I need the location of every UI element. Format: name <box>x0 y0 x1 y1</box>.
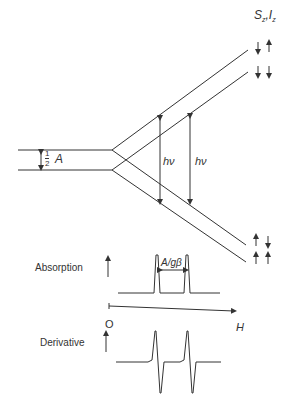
fraction-denominator: 2 <box>45 159 49 168</box>
splitting-label: A/gβ <box>161 257 182 268</box>
iz-subscript: z <box>272 16 276 23</box>
sz-label: S <box>254 8 262 22</box>
hv-label-right: hν <box>195 155 207 167</box>
esr-hyperfine-diagram: Sz,Iz 1 2 A hν hν Absorption A/gβ O H De… <box>0 0 286 405</box>
hyperfine-constant-label: A <box>55 152 63 166</box>
field-axis-label: H <box>236 321 244 333</box>
half-fraction: 1 2 <box>45 149 49 168</box>
origin-label: O <box>105 318 114 330</box>
absorption-label: Absorption <box>35 262 83 273</box>
spin-quantum-labels: Sz,Iz <box>254 8 276 23</box>
derivative-label: Derivative <box>40 337 84 348</box>
fraction-numerator: 1 <box>45 149 49 159</box>
hv-label-left: hν <box>163 155 175 167</box>
